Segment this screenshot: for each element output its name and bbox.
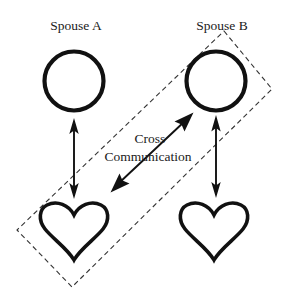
spouse-b-label: Spouse B: [196, 18, 247, 33]
cross-communication-diagram: Spouse A Spouse B Cross Communication: [0, 0, 290, 299]
cross-communication-label-line1: Cross: [135, 131, 166, 146]
diagram-canvas: Spouse A Spouse B Cross Communication: [0, 0, 290, 299]
spouse-a-label: Spouse A: [50, 18, 102, 33]
cross-communication-label-line2: Communication: [105, 149, 192, 164]
